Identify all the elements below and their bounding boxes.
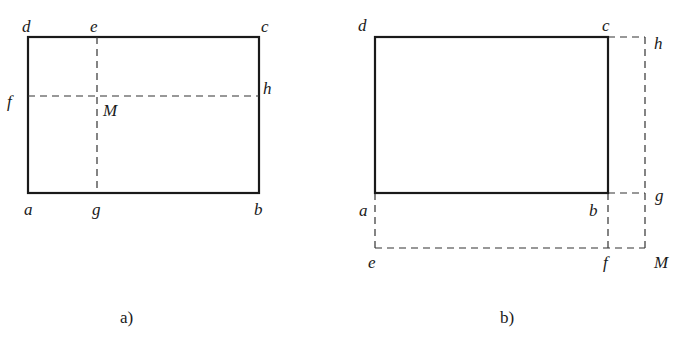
label-g: g [655, 186, 664, 205]
label-d: d [22, 17, 31, 36]
label-g: g [92, 200, 101, 219]
label-b: b [589, 201, 598, 220]
figure-b: d c h g a b e f M b) [358, 16, 669, 327]
rectangle-abcd-b [375, 37, 608, 193]
label-f: f [7, 92, 14, 111]
label-M: M [653, 253, 669, 272]
label-c: c [261, 17, 269, 36]
label-d: d [358, 16, 367, 35]
label-h: h [654, 34, 663, 53]
label-a: a [359, 201, 368, 220]
caption-b: b) [500, 308, 514, 327]
label-a: a [24, 200, 33, 219]
rectangle-abcd-a [28, 37, 259, 193]
label-f: f [603, 253, 610, 272]
label-e: e [90, 17, 98, 36]
label-e: e [368, 253, 376, 272]
label-h: h [263, 79, 272, 98]
figure-canvas: d e c f h M a g b a) d c h g a b e f M b… [0, 0, 681, 342]
label-M: M [102, 101, 118, 120]
label-c: c [602, 16, 610, 35]
label-b: b [254, 200, 263, 219]
figure-a: d e c f h M a g b a) [7, 17, 272, 327]
caption-a: a) [120, 308, 133, 327]
